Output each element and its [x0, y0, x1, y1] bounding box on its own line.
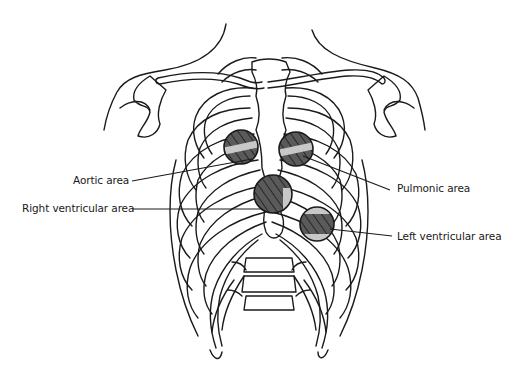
- left-ventricular-area-marker: [298, 205, 338, 243]
- right-ventricular-area-label: Right ventricular area: [22, 202, 134, 214]
- clavicle-left: [156, 73, 264, 89]
- right-ventricular-area-marker: [254, 175, 297, 213]
- aortic-area-marker: [222, 130, 263, 164]
- aortic-area-label: Aortic area: [73, 174, 129, 186]
- aortic-leader-line: [132, 159, 252, 181]
- thorax-diagram: Aortic area Right ventricular area Pulmo…: [0, 0, 511, 372]
- vertebrae: [242, 258, 296, 310]
- left-ventricular-area-label: Left ventricular area: [397, 230, 502, 242]
- pulmonic-area-label: Pulmonic area: [397, 182, 470, 194]
